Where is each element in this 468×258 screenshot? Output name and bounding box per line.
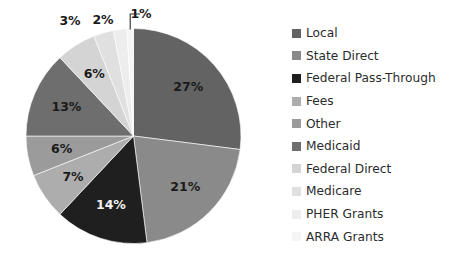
legend-item[interactable]: Federal Direct — [292, 158, 468, 181]
legend-swatch-icon — [292, 51, 301, 60]
legend-item-label: Federal Direct — [306, 163, 391, 175]
legend-item-label: Local — [306, 27, 338, 39]
pie-data-label: 7% — [62, 169, 84, 184]
legend-item[interactable]: Medicare — [292, 180, 468, 203]
chart-legend: LocalState DirectFederal Pass-ThroughFee… — [292, 22, 468, 250]
legend-swatch-icon — [292, 142, 301, 151]
pie-data-label: 14% — [96, 197, 126, 212]
legend-swatch-icon — [292, 187, 301, 196]
pie-data-label: 2% — [92, 12, 114, 27]
legend-swatch-icon — [292, 29, 301, 38]
legend-item[interactable]: Federal Pass-Through — [292, 67, 468, 90]
pie-data-label: 6% — [51, 141, 73, 156]
legend-swatch-icon — [292, 164, 301, 173]
legend-item[interactable]: PHER Grants — [292, 203, 468, 226]
legend-item-label: Medicaid — [306, 140, 360, 152]
legend-item-label: PHER Grants — [306, 208, 383, 220]
legend-item-label: Fees — [306, 95, 334, 107]
legend-item[interactable]: Medicaid — [292, 135, 468, 158]
legend-swatch-icon — [292, 232, 301, 241]
legend-item[interactable]: ARRA Grants — [292, 225, 468, 248]
legend-item-label: ARRA Grants — [306, 231, 384, 243]
legend-item-label: State Direct — [306, 50, 379, 62]
legend-item-label: Medicare — [306, 185, 362, 197]
legend-swatch-icon — [292, 74, 301, 83]
pie-plot-area: 27%21%14%7%6%13%6%3%2%1% — [0, 0, 290, 258]
legend-swatch-icon — [292, 210, 301, 219]
legend-item[interactable]: Local — [292, 22, 468, 45]
pie-chart-figure: 27%21%14%7%6%13%6%3%2%1% LocalState Dire… — [0, 0, 468, 258]
legend-item[interactable]: State Direct — [292, 45, 468, 68]
legend-item-label: Other — [306, 118, 341, 130]
legend-swatch-icon — [292, 97, 301, 106]
pie-data-label: 13% — [51, 99, 81, 114]
pie-data-label: 1% — [130, 6, 152, 21]
pie-data-label: 27% — [173, 79, 203, 94]
pie-data-label: 21% — [170, 179, 200, 194]
pie-svg: 27%21%14%7%6%13%6%3%2%1% — [0, 0, 290, 258]
pie-data-label: 3% — [59, 13, 81, 28]
legend-item[interactable]: Fees — [292, 90, 468, 113]
legend-swatch-icon — [292, 119, 301, 128]
legend-item[interactable]: Other — [292, 112, 468, 135]
pie-data-label: 6% — [84, 66, 106, 81]
legend-item-label: Federal Pass-Through — [306, 72, 436, 84]
pie-slice-group — [26, 28, 241, 243]
